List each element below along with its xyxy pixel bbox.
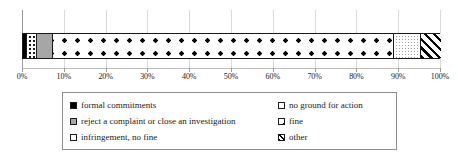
x-axis-tick-label: 100% [431, 72, 449, 81]
x-axis-tick-label: 50% [224, 72, 238, 81]
legend-item-label: formal commitments [81, 100, 156, 111]
legend-item[interactable]: reject a complaint or close an investiga… [70, 113, 278, 129]
x-axis-tick-label: 40% [182, 72, 196, 81]
x-axis-tick-label: 90% [391, 72, 405, 81]
legend-item[interactable]: no ground for action [278, 97, 396, 113]
legend-item-label: other [289, 132, 308, 143]
bar-segment[interactable] [420, 34, 441, 58]
legend-item-label: reject a complaint or close an investiga… [81, 116, 235, 127]
light-stipple-swatch-icon [278, 102, 285, 109]
legend-item[interactable]: other [278, 129, 396, 145]
bar-segment[interactable] [36, 34, 52, 58]
stacked-bar-chart: 0%10%20%30%40%50%60%70%80%90%100% formal… [0, 0, 458, 160]
x-axis-tick-label: 70% [307, 72, 321, 81]
bar-total [22, 33, 440, 59]
white-sparse-dots-swatch-icon [70, 134, 77, 141]
legend-column-left: formal commitments reject a complaint or… [70, 97, 278, 145]
legend-item-label: fine [289, 116, 303, 127]
bar-segment[interactable] [52, 34, 393, 58]
x-axis-tick-label: 80% [349, 72, 363, 81]
solid-black-swatch-icon [70, 102, 77, 109]
legend-item[interactable]: infringement, no fine [70, 129, 278, 145]
legend-box: formal commitments reject a complaint or… [62, 92, 397, 150]
bar-segment[interactable] [26, 34, 36, 58]
legend-item-label: infringement, no fine [81, 132, 157, 143]
legend-column-right: no ground for action fine other [278, 97, 396, 145]
x-axis-tick-label: 60% [266, 72, 280, 81]
legend-item[interactable]: formal commitments [70, 97, 278, 113]
x-axis-tick-label: 20% [98, 72, 112, 81]
x-axis-tick-label: 30% [140, 72, 154, 81]
diagonal-hatch-swatch-icon [278, 134, 285, 141]
legend-item[interactable]: fine [278, 113, 396, 129]
legend-item-label: no ground for action [289, 100, 363, 111]
grey-swatch-icon [70, 118, 77, 125]
bar-segment[interactable] [393, 34, 420, 58]
x-axis-tick-label: 10% [57, 72, 71, 81]
x-axis-tick-label: 0% [17, 72, 27, 81]
large-black-dots-swatch-icon [278, 118, 285, 125]
